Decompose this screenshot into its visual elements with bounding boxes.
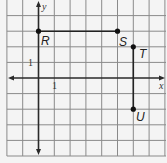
label-S: S — [119, 35, 127, 49]
point-S — [115, 29, 120, 34]
y-tick-label-1: 1 — [28, 57, 33, 68]
x-axis — [8, 76, 165, 81]
y-axis-label: y — [41, 1, 47, 12]
label-U: U — [136, 110, 145, 124]
x-axis-label: x — [158, 80, 164, 91]
y-axis-down-arrow-icon — [36, 149, 41, 155]
x-tick-label-1: 1 — [52, 80, 57, 91]
coordinate-plane: y x 1 1 R S T U — [0, 0, 167, 163]
label-T: T — [139, 47, 148, 61]
y-axis-up-arrow-icon — [36, 1, 41, 7]
label-R: R — [41, 34, 50, 48]
point-T — [131, 44, 136, 49]
coordinate-plane-figure: y x 1 1 R S T U — [0, 0, 167, 163]
x-axis-left-arrow-icon — [8, 76, 14, 81]
